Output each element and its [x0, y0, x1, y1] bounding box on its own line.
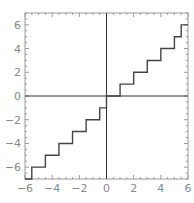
y-tick-label: −2 — [5, 114, 21, 127]
y-tick-label: −4 — [5, 137, 21, 150]
y-tick-label: 6 — [14, 19, 21, 32]
x-tick-label: 2 — [130, 182, 137, 195]
x-tick-label: 4 — [157, 182, 164, 195]
x-tick-label: −4 — [44, 182, 60, 195]
y-tick-label: 2 — [14, 66, 21, 79]
x-tick-labels: −6−4−20246 — [17, 182, 192, 195]
y-tick-label: 4 — [14, 43, 21, 56]
y-tick-labels: −6−4−20246 — [5, 19, 21, 174]
x-tick-label: −2 — [71, 182, 87, 195]
x-tick-label: 6 — [185, 182, 192, 195]
x-tick-label: 0 — [103, 182, 110, 195]
y-tick-label: −6 — [5, 161, 21, 174]
y-tick-label: 0 — [14, 90, 21, 103]
x-tick-label: −6 — [17, 182, 33, 195]
step-function-chart: −6−4−20246 −6−4−20246 — [0, 0, 194, 203]
